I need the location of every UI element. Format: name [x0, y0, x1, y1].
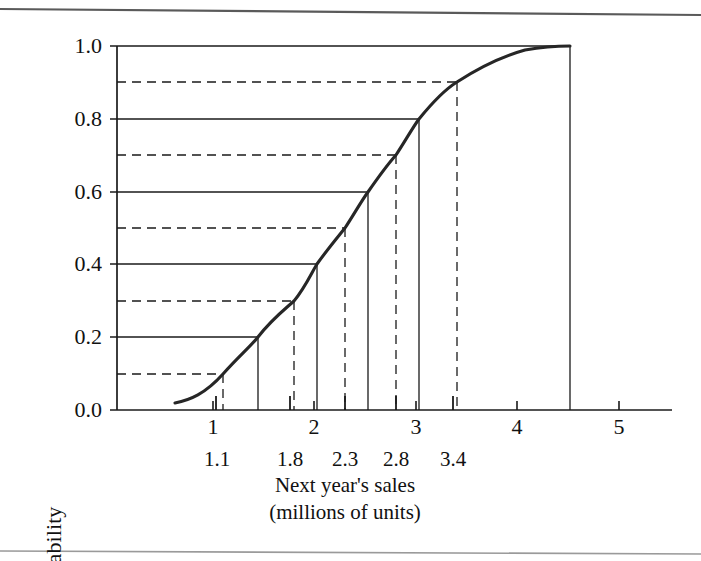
x-tick-label-2: 2 — [302, 414, 326, 440]
x-tick-label-3: 3 — [404, 414, 428, 440]
x-axis-title: Next year's sales (millions of units) — [180, 472, 510, 526]
x-tick-label-5: 5 — [607, 414, 631, 440]
annotated-x-label-2.8: 2.8 — [375, 447, 417, 472]
x-axis-title-line-2: (millions of units) — [180, 499, 510, 526]
figure-root: 1.0 0.8 0.6 0.4 0.2 0.0 1 2 3 4 5 1.1 1.… — [0, 0, 701, 561]
y-tick-label-1.0: 1.0 — [38, 33, 102, 59]
y-axis-title: Cumulative probability — [34, 400, 74, 561]
y-tick-label-0.6: 0.6 — [38, 179, 102, 205]
page-rule-top — [0, 9, 701, 15]
annotated-x-label-1.8: 1.8 — [269, 447, 311, 472]
x-axis-title-line-1: Next year's sales — [180, 472, 510, 499]
y-axis-ticks — [110, 46, 117, 410]
x-tick-label-4: 4 — [505, 414, 529, 440]
annotated-value-ticks — [216, 396, 453, 410]
fractile-horizontal-leaders — [117, 46, 570, 374]
x-tick-label-1: 1 — [201, 414, 225, 440]
x-axis-major-ticks — [213, 401, 619, 410]
annotated-x-label-2.3: 2.3 — [324, 447, 366, 472]
y-tick-label-0.2: 0.2 — [38, 324, 102, 350]
cdf-curve-group — [175, 46, 570, 403]
page-rule-bottom — [0, 551, 701, 554]
annotated-x-label-3.4: 3.4 — [432, 447, 474, 472]
y-tick-label-0.4: 0.4 — [38, 251, 102, 277]
cdf-curve — [175, 46, 570, 403]
y-tick-label-0.8: 0.8 — [38, 106, 102, 132]
annotated-x-label-1.1: 1.1 — [196, 447, 238, 472]
